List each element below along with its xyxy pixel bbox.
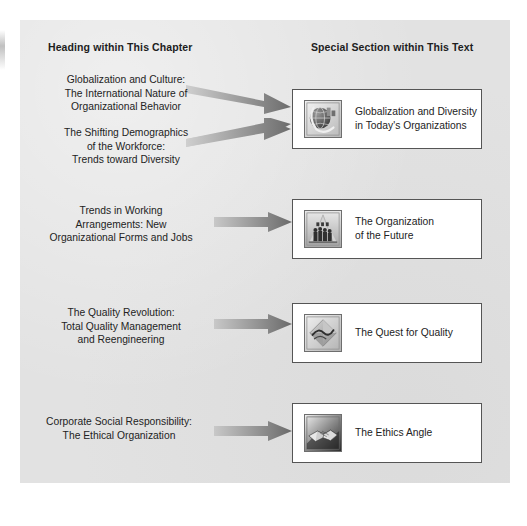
column-header-right: Special Section within This Text [311, 41, 473, 53]
chapter-heading-5: Corporate Social Responsibility: The Eth… [24, 415, 214, 442]
special-section-1-line1: Globalization and Diversity [355, 105, 477, 119]
special-section-1-line2: in Today's Organizations [355, 119, 477, 133]
chapter-heading-1: Globalization and Culture: The Internati… [38, 73, 214, 114]
crowd-of-people-icon [304, 210, 342, 248]
special-section-label-3: The Quest for Quality [355, 326, 453, 340]
chapter-heading-4-line2: Total Quality Management [28, 320, 214, 334]
chapter-heading-2-line2: of the Workforce: [38, 140, 214, 154]
chapter-heading-2: The Shifting Demographics of the Workfor… [38, 126, 214, 167]
chapter-heading-4-line3: and Reengineering [28, 333, 214, 347]
special-section-box-4[interactable]: The Ethics Angle [292, 403, 482, 463]
special-section-2-line2: of the Future [355, 229, 434, 243]
arrow-ethics-to-ethics-box [214, 421, 292, 441]
special-section-2-line1: The Organization [355, 215, 434, 229]
diamond-gem-icon [304, 314, 342, 352]
chapter-heading-5-line1: Corporate Social Responsibility: [24, 415, 214, 429]
chapter-heading-3-line1: Trends in Working [28, 204, 214, 218]
arrow-working-arrangements-to-organization-box [214, 212, 292, 232]
special-section-box-3[interactable]: The Quest for Quality [292, 303, 482, 363]
chapter-heading-4: The Quality Revolution: Total Quality Ma… [28, 306, 214, 347]
chapter-heading-3-line3: Organizational Forms and Jobs [28, 231, 214, 245]
special-section-label-1: Globalization and Diversity in Today's O… [355, 105, 477, 133]
chapter-heading-1-line2: The International Nature of [38, 87, 214, 101]
special-section-4-line1: The Ethics Angle [355, 426, 432, 440]
globe-icon [304, 100, 342, 138]
handshake-icon [304, 414, 342, 452]
special-section-box-2[interactable]: The Organization of the Future [292, 199, 482, 259]
arrow-quality-to-quest-box [214, 314, 292, 334]
chapter-heading-5-line2: The Ethical Organization [24, 429, 214, 443]
chapter-heading-3-line2: Arrangements: New [28, 218, 214, 232]
special-section-label-4: The Ethics Angle [355, 426, 432, 440]
chapter-heading-1-line3: Organizational Behavior [38, 100, 214, 114]
chapter-heading-3: Trends in Working Arrangements: New Orga… [28, 204, 214, 245]
special-section-label-2: The Organization of the Future [355, 215, 434, 243]
scan-edge-artifact [0, 30, 5, 70]
chapter-heading-2-line1: The Shifting Demographics [38, 126, 214, 140]
chapter-heading-2-line3: Trends toward Diversity [38, 153, 214, 167]
special-section-box-1[interactable]: Globalization and Diversity in Today's O… [292, 89, 482, 149]
column-header-left: Heading within This Chapter [48, 41, 192, 53]
chapter-heading-1-line1: Globalization and Culture: [38, 73, 214, 87]
special-section-3-line1: The Quest for Quality [355, 326, 453, 340]
figure-root: Heading within This Chapter Special Sect… [0, 0, 527, 526]
chapter-heading-4-line1: The Quality Revolution: [28, 306, 214, 320]
